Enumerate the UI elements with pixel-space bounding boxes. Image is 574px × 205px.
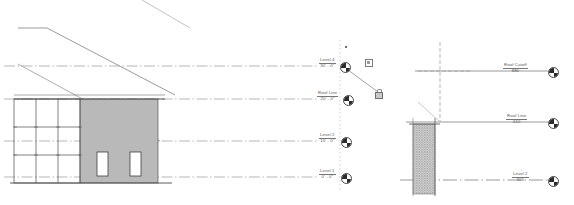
level-tag-elevation: 20' - 0" <box>317 97 338 102</box>
level-tag-elevation: 305 <box>512 178 529 183</box>
level-tag-elevation: 610 <box>506 120 527 125</box>
section-grid-lines <box>418 42 470 122</box>
level-tag-level-4[interactable]: Level 4 30' - 0" <box>319 58 336 69</box>
hatched-wall-section[interactable] <box>409 118 440 196</box>
level-head-bubble-level-2[interactable] <box>341 137 352 148</box>
level-head-bubble-roof-line[interactable] <box>343 95 354 106</box>
window-1 <box>97 152 108 176</box>
level-tag-level-2[interactable]: Level 2 10' - 0" <box>319 133 336 144</box>
section-level-head-bubble-roof-line[interactable] <box>548 118 559 129</box>
section-level-tag-roof-line[interactable]: Roof Line 610 <box>506 114 527 125</box>
section-level-head-bubble-roof-cutoff[interactable] <box>548 67 559 78</box>
level-head-bubble-level-1[interactable] <box>341 173 352 184</box>
section-level-head-bubble-level-2[interactable] <box>548 176 559 187</box>
level-tag-elevation: 30' - 0" <box>319 64 336 69</box>
level-tag-elevation: 10' - 0" <box>319 139 336 144</box>
level-tag-roof-line[interactable]: Roof Line 20' - 0" <box>317 91 338 102</box>
level-tag-elevation: 0' - 0" <box>319 175 336 180</box>
drawing-canvas[interactable] <box>0 0 574 205</box>
level-tag-elevation: 880 <box>503 69 528 74</box>
window-2 <box>130 152 141 176</box>
level-head-bubble-level-4[interactable] <box>340 62 351 73</box>
level-tag-level-1[interactable]: Level 1 0' - 0" <box>319 169 336 180</box>
section-level-tag-roof-cutoff[interactable]: Roof Cutoff 880 <box>503 63 528 74</box>
building-elevation[interactable] <box>10 95 172 183</box>
section-level-tag-level-2[interactable]: Level 2 305 <box>512 172 529 183</box>
level-datum-lines[interactable] <box>4 66 318 177</box>
drag-handle-icon[interactable] <box>365 59 373 67</box>
shaded-wall <box>80 99 158 183</box>
padlock-constraint-icon[interactable] <box>375 89 382 97</box>
